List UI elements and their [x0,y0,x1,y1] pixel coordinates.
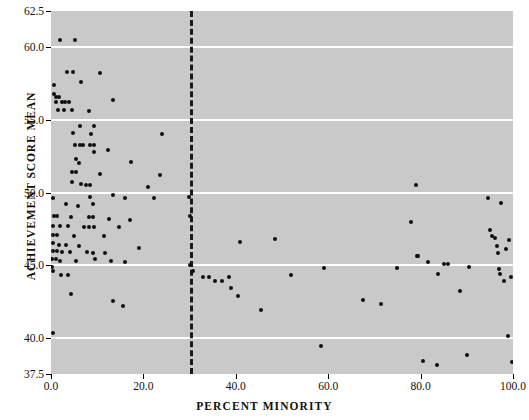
x-tick-label: 60.0 [318,380,338,392]
y-tick-label: 55.0 [0,114,44,126]
y-tick-mark [46,47,51,48]
x-tick-label: 40.0 [226,380,246,392]
y-tick-mark [46,338,51,339]
x-axis-label: PERCENT MINORITY [0,400,529,412]
x-tick-label: 80.0 [411,380,431,392]
x-tick-mark [513,374,514,379]
y-axis: 37.540.045.050.055.060.062.5 [0,0,529,420]
x-tick-label: 20.0 [133,380,153,392]
x-tick-mark [328,374,329,379]
y-tick-label: 50.0 [0,187,44,199]
x-tick-mark [236,374,237,379]
y-tick-label: 62.5 [0,5,44,17]
y-axis-label: ACHIEVEMENT SCORE MEAN [25,86,37,286]
y-tick-mark [46,265,51,266]
y-tick-label: 60.0 [0,41,44,53]
x-tick-label: 0.0 [44,380,58,392]
x-tick-mark [143,374,144,379]
y-tick-mark [46,120,51,121]
y-tick-mark [46,193,51,194]
x-tick-mark [51,374,52,379]
x-tick-mark [421,374,422,379]
x-tick-label: 100.0 [500,380,526,392]
y-tick-label: 37.5 [0,368,44,380]
y-tick-label: 45.0 [0,259,44,271]
y-tick-label: 40.0 [0,332,44,344]
y-tick-mark [46,11,51,12]
scatter-plot-figure: 37.540.045.050.055.060.062.5 PERCENT MIN… [0,0,529,420]
